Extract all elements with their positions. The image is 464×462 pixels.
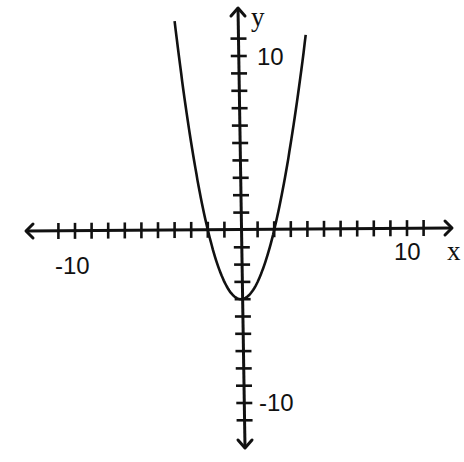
y-tick-label-neg10: -10 [259,391,294,415]
x-tick-label-10: 10 [394,240,421,264]
x-tick-label-neg10: -10 [55,254,90,278]
x-axis [26,221,452,238]
x-axis-label: x [447,238,461,265]
coordinate-plane [0,0,464,462]
y-tick-label-10: 10 [257,45,284,69]
y-axis-label: y [251,4,265,31]
